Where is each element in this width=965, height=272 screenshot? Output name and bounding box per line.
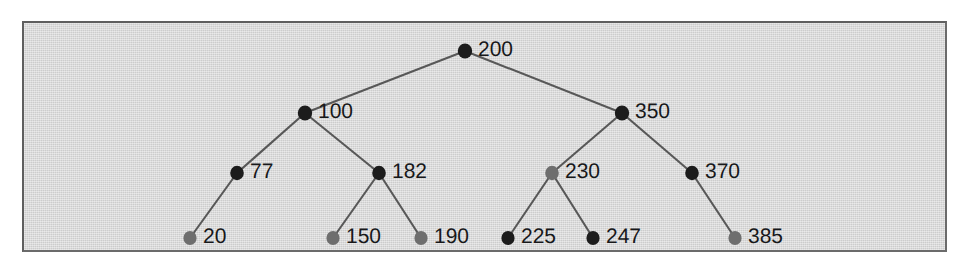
tree-node-label-385: 385 (748, 225, 783, 248)
tree-node-label-200: 200 (478, 38, 513, 61)
tree-node-label-77: 77 (250, 160, 273, 183)
tree-edge-layer (190, 51, 735, 238)
tree-node-350 (615, 105, 629, 120)
tree-node-label-225: 225 (521, 225, 556, 248)
tree-node-100 (298, 105, 312, 120)
tree-node-label-350: 350 (635, 100, 670, 123)
tree-node-182 (372, 166, 386, 180)
tree-node-230 (545, 166, 559, 180)
tree-edge-182-to-190 (379, 173, 421, 238)
tree-node-label-190: 190 (434, 225, 469, 248)
tree-node-label-182: 182 (392, 160, 427, 183)
tree-node-label-150: 150 (346, 225, 381, 248)
tree-node-385 (728, 231, 741, 245)
tree-node-370 (685, 166, 699, 180)
tree-node-label-20: 20 (203, 225, 226, 248)
tree-node-label-230: 230 (565, 160, 600, 183)
tree-edge-230-to-247 (552, 173, 593, 238)
tree-node-190 (414, 231, 427, 245)
tree-node-20 (183, 231, 196, 245)
figure-root: 2001003507718223037020150190225247385 (0, 0, 965, 272)
tree-node-247 (586, 231, 599, 245)
tree-node-200 (458, 43, 472, 58)
tree-label-layer: 2001003507718223037020150190225247385 (203, 38, 783, 248)
tree-node-label-370: 370 (705, 160, 740, 183)
tree-edge-370-to-385 (692, 173, 735, 238)
tree-node-label-247: 247 (606, 225, 641, 248)
tree-node-label-100: 100 (318, 100, 353, 123)
binary-search-tree-graphic: 2001003507718223037020150190225247385 (0, 0, 965, 272)
tree-node-77 (230, 166, 244, 180)
tree-node-225 (501, 231, 514, 245)
tree-node-150 (326, 231, 339, 245)
